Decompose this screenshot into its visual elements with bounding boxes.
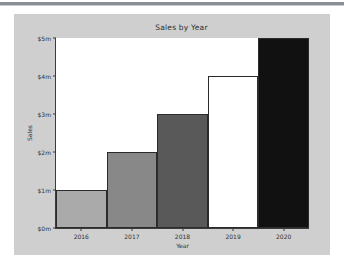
bar-2017[interactable] bbox=[107, 152, 158, 228]
x-tick-mark bbox=[283, 228, 284, 231]
y-axis-label: Sales bbox=[26, 125, 33, 141]
x-tick-mark bbox=[81, 228, 82, 231]
chart-figure: Sales by Year Sales $0m$1m$2m$3m$4m$5m 2… bbox=[14, 14, 330, 255]
chart-title: Sales by Year bbox=[55, 23, 308, 32]
screenshot-root: Sales by Year Sales $0m$1m$2m$3m$4m$5m 2… bbox=[0, 0, 344, 270]
header-rule-shadow bbox=[0, 5, 344, 6]
x-tick-mark bbox=[233, 228, 234, 231]
bar-2019[interactable] bbox=[208, 76, 259, 228]
bar-series bbox=[56, 38, 309, 228]
bar-2020[interactable] bbox=[258, 38, 309, 228]
bar-2016[interactable] bbox=[56, 190, 107, 228]
x-tick-mark bbox=[131, 228, 132, 231]
x-axis-label: Year bbox=[56, 242, 309, 249]
bar-2018[interactable] bbox=[157, 114, 208, 228]
chart-plot-area: Sales $0m$1m$2m$3m$4m$5m 201620172018201… bbox=[55, 38, 309, 229]
x-tick-mark bbox=[182, 228, 183, 231]
